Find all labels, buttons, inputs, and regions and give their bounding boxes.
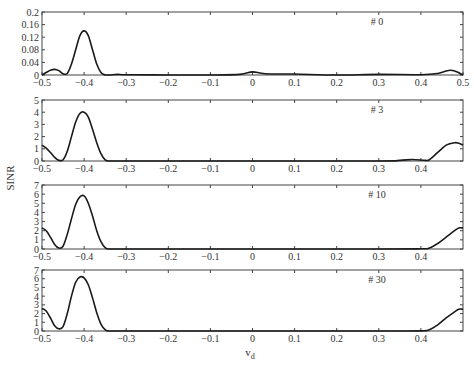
panel-1: −0.5−0.4−0.3−0.2−0.100.10.20.30.4012345#… <box>33 95 463 175</box>
x-tick-label: 0.1 <box>288 333 301 344</box>
y-tick-label: 2 <box>34 131 39 142</box>
x-tick-label: −0.4 <box>75 163 93 174</box>
x-tick-label: 0.1 <box>288 77 301 88</box>
chart-panels: −0.5−0.4−0.3−0.2−0.100.10.20.30.40.500.0… <box>22 7 470 345</box>
x-tick-label: 0.2 <box>330 333 343 344</box>
panel-0: −0.5−0.4−0.3−0.2−0.100.10.20.30.40.500.0… <box>22 7 470 89</box>
y-tick-label: 4 <box>34 107 39 118</box>
x-tick-label: 0.2 <box>330 77 343 88</box>
y-tick-label: 0.12 <box>22 32 40 43</box>
x-tick-label: −0.1 <box>201 163 219 174</box>
x-tick-label: 0 <box>250 333 255 344</box>
panel-label: # 30 <box>368 274 386 285</box>
x-tick-label: −0.1 <box>201 251 219 262</box>
x-tick-label: 0.3 <box>373 163 386 174</box>
x-tick-label: 0.3 <box>373 77 386 88</box>
x-tick-label: −0.2 <box>159 163 177 174</box>
panel-label: # 10 <box>368 189 386 200</box>
plot-frame <box>42 270 463 331</box>
y-tick-label: 0.08 <box>22 44 40 55</box>
plot-frame <box>42 100 463 161</box>
y-axis-label: SINR <box>4 165 16 191</box>
x-tick-label: 0.2 <box>330 251 343 262</box>
x-tick-label: 0.1 <box>288 251 301 262</box>
y-tick-label: 0.16 <box>22 19 40 30</box>
plot-frame <box>42 185 463 249</box>
x-tick-label: −0.3 <box>117 163 135 174</box>
y-tick-label: 0.04 <box>22 57 40 68</box>
x-tick-label: −0.3 <box>117 333 135 344</box>
y-tick-label: 0.2 <box>27 7 40 18</box>
x-tick-label: −0.2 <box>159 333 177 344</box>
x-tick-label: 0.4 <box>415 333 428 344</box>
x-tick-label: −0.3 <box>117 251 135 262</box>
x-tick-label: 0 <box>250 163 255 174</box>
x-tick-label: −0.4 <box>75 77 93 88</box>
y-tick-label: 1 <box>34 143 39 154</box>
x-tick-label: −0.3 <box>117 77 135 88</box>
x-axis-label: vd <box>245 346 255 361</box>
x-tick-label: 0 <box>250 77 255 88</box>
panel-2: −0.5−0.4−0.3−0.2−0.100.10.20.30.40123456… <box>33 180 463 263</box>
x-tick-label: 0.3 <box>373 333 386 344</box>
panel-label: # 3 <box>371 104 384 115</box>
x-tick-label: −0.4 <box>75 333 93 344</box>
x-tick-label: 0.5 <box>457 77 470 88</box>
sinr-curve <box>42 195 463 249</box>
panel-3: −0.5−0.4−0.3−0.2−0.100.10.20.30.40123456… <box>33 265 463 345</box>
x-tick-label: −0.2 <box>159 77 177 88</box>
x-tick-label: 0.1 <box>288 163 301 174</box>
x-tick-label: 0.4 <box>415 77 428 88</box>
sinr-chart: −0.5−0.4−0.3−0.2−0.100.10.20.30.40.500.0… <box>0 0 474 365</box>
sinr-curve <box>42 112 463 161</box>
x-tick-label: 0.4 <box>415 163 428 174</box>
panel-label: # 0 <box>371 16 384 27</box>
x-tick-label: 0.2 <box>330 163 343 174</box>
x-tick-label: −0.4 <box>75 251 93 262</box>
x-tick-label: −0.1 <box>201 77 219 88</box>
sinr-curve <box>42 31 463 75</box>
y-tick-label: 0 <box>34 156 39 167</box>
x-tick-label: 0 <box>250 251 255 262</box>
x-tick-label: 0.4 <box>415 251 428 262</box>
y-tick-label: 3 <box>34 119 39 130</box>
y-tick-label: 5 <box>34 95 39 106</box>
x-tick-label: −0.2 <box>159 251 177 262</box>
y-tick-label: 7 <box>34 180 39 191</box>
plot-frame <box>42 12 463 75</box>
y-tick-label: 0 <box>34 70 39 81</box>
sinr-curve <box>42 277 463 331</box>
x-tick-label: −0.1 <box>201 333 219 344</box>
y-tick-label: 7 <box>34 265 39 276</box>
x-tick-label: 0.3 <box>373 251 386 262</box>
